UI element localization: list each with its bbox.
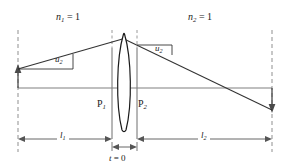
distance-l1-label: l1 [57,131,69,141]
angle-u2-left-subscript: 2 [60,59,63,65]
n1-value: 1 [75,11,80,22]
l2-subscript: 2 [204,135,207,141]
principal-plane-1-label: P1 [97,99,106,111]
optics-ray-diagram-figure: n1 = 1 n2 = 1 u2 u2 P1 P2 l1 l2 t = 0 [0,0,290,168]
t-value: 0 [121,153,126,163]
l1-subscript: 1 [63,135,66,141]
dimension-thickness-left-arrowhead [112,144,119,150]
principal-plane-2-label: P2 [138,99,147,111]
t-equals: = [114,153,119,163]
distance-l2-label: l2 [198,131,210,141]
t-symbol: t [109,153,112,163]
biconvex-lens [118,33,131,131]
angle-u2-left-label: u2 [55,55,63,65]
thickness-label: t = 0 [109,154,126,163]
refractive-index-right-label: n2 = 1 [188,12,212,24]
dimension-l1-right-arrowhead [105,136,112,142]
dimension-thickness-right-arrowhead [130,144,137,150]
n2-value: 1 [207,11,212,22]
n2-equals: = [199,11,205,22]
angle-u2-right-label: u2 [155,44,163,54]
lens-body-outline [118,33,131,131]
incident-ray-group [18,38,126,69]
P1-subscript: 1 [103,103,106,110]
angle-u2-right-subscript: 2 [160,48,163,54]
n2-subscript: 2 [193,16,196,23]
n1-equals: = [67,11,73,22]
incident-ray [18,38,126,69]
object-arrow [15,64,22,88]
dimension-l2-left-arrowhead [137,136,144,142]
refractive-index-left-label: n1 = 1 [56,12,80,24]
n1-subscript: 1 [61,16,64,23]
dimension-l2-right-arrowhead [265,136,272,142]
ray-diagram-canvas [0,0,290,168]
dimension-l1-left-arrowhead [18,136,25,142]
dimension-thickness [112,142,137,151]
P2-subscript: 2 [144,103,147,110]
